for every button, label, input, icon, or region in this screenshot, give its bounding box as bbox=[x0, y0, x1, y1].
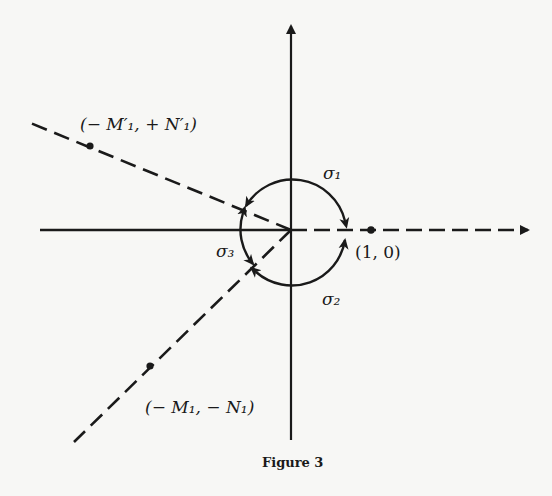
point-upper-label: (− M′₁, + N′₁) bbox=[80, 114, 197, 134]
point-lower-label: (− M₁, − N₁) bbox=[145, 397, 254, 417]
point-unit-marker bbox=[367, 226, 375, 234]
sigma1-label: σ₁ bbox=[323, 163, 341, 183]
point-lower-marker bbox=[146, 362, 153, 369]
sigma3-arc bbox=[240, 213, 253, 264]
sigma2-arc bbox=[256, 240, 345, 285]
point-upper-marker bbox=[86, 142, 93, 149]
ray-upper-left bbox=[28, 122, 291, 230]
sigma2-label: σ₂ bbox=[322, 289, 340, 309]
point-unit-label: (1, 0) bbox=[355, 242, 401, 262]
sigma3-label: σ₃ bbox=[216, 241, 234, 261]
figure-caption: Figure 3 bbox=[262, 455, 323, 470]
sigma1-arc bbox=[246, 180, 345, 221]
figure-3-diagram bbox=[0, 0, 552, 496]
